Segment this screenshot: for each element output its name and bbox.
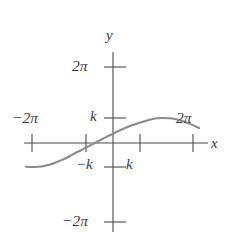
trig-graph-figure: y x 2π k −k −2π −2π 2π k <box>0 0 230 243</box>
x-tick-label-k: k <box>126 157 133 172</box>
y-axis-label: y <box>106 28 113 43</box>
x-tick-label-2pi: 2π <box>176 110 192 126</box>
y-tick-label-2pi: 2π <box>72 58 88 74</box>
y-tick-label-neg-2pi: −2π <box>62 213 88 229</box>
x-axis-label: x <box>211 136 218 151</box>
y-tick-label-neg-k: −k <box>76 157 93 172</box>
x-tick-label-neg-2pi: −2π <box>12 110 38 126</box>
y-tick-label-k: k <box>90 109 97 124</box>
